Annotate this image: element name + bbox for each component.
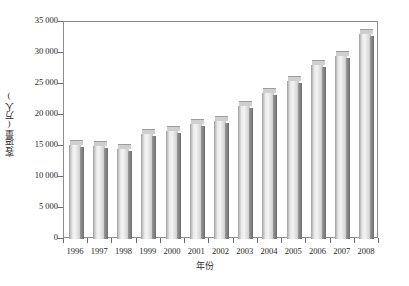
bar <box>69 141 84 239</box>
x-axis-tick-label: 2008 <box>354 246 378 256</box>
y-axis-tick-label: 30 000 <box>18 47 58 56</box>
bar-side-face <box>80 147 84 239</box>
y-axis-tick-mark <box>57 145 63 146</box>
bar-top-face <box>312 60 325 65</box>
bar <box>359 30 374 239</box>
bar-top-face <box>263 88 276 93</box>
x-axis-tick-mark <box>184 238 185 243</box>
x-axis-tick-mark <box>281 238 282 243</box>
bar-top-face <box>118 144 131 149</box>
bar <box>287 77 302 239</box>
bar <box>335 52 350 239</box>
bar-side-face <box>346 58 350 239</box>
bar-top-face <box>94 141 107 146</box>
bar-top-face <box>167 126 180 131</box>
x-axis-tick-label: 1996 <box>63 246 87 256</box>
x-axis-tick-mark <box>330 238 331 243</box>
y-axis-tick-mark <box>57 21 63 22</box>
bar <box>117 145 132 239</box>
bars-layer <box>64 22 379 239</box>
x-axis-tick-mark <box>136 238 137 243</box>
x-axis-tick-label: 2002 <box>208 246 232 256</box>
x-axis-tick-mark <box>233 238 234 243</box>
x-axis-tick-label: 2003 <box>233 246 257 256</box>
x-axis-title: 年份 <box>0 261 409 272</box>
y-axis-tick-label: 25 000 <box>18 78 58 87</box>
bar-side-face <box>201 126 205 239</box>
y-axis-tick-labels: 05 00010 00015 00020 00025 00030 00035 0… <box>18 0 58 286</box>
bar-top-face <box>288 76 301 81</box>
bar-side-face <box>273 95 277 239</box>
bar-top-face <box>142 129 155 134</box>
plot-area <box>63 21 378 238</box>
y-axis-tick-label: 35 000 <box>18 16 58 25</box>
bar-side-face <box>249 108 253 239</box>
bar <box>311 61 326 239</box>
bar-side-face <box>225 123 229 239</box>
x-axis-tick-label: 2006 <box>305 246 329 256</box>
bar-side-face <box>370 36 374 239</box>
bar <box>262 89 277 239</box>
y-axis-tick-mark <box>57 207 63 208</box>
x-axis-tick-label: 1999 <box>136 246 160 256</box>
bar-side-face <box>104 148 108 239</box>
x-axis-tick-label: 2004 <box>257 246 281 256</box>
x-axis-tick-label: 1998 <box>111 246 135 256</box>
x-axis-tick-mark <box>87 238 88 243</box>
bar-side-face <box>298 83 302 239</box>
y-axis-tick-label: 0 <box>18 233 58 242</box>
y-axis-tick-label: 20 000 <box>18 109 58 118</box>
x-axis-tick-mark <box>305 238 306 243</box>
x-axis-tick-label: 2000 <box>160 246 184 256</box>
y-axis-title: 客运量(万人) <box>4 92 18 157</box>
y-axis-tick-mark <box>57 114 63 115</box>
y-axis-tick-label: 15 000 <box>18 140 58 149</box>
bar-side-face <box>152 136 156 239</box>
bar <box>141 130 156 239</box>
bar <box>190 120 205 239</box>
x-axis-tick-label: 1997 <box>87 246 111 256</box>
x-axis-tick-mark <box>160 238 161 243</box>
bar <box>214 117 229 239</box>
x-axis-tick-label: 2001 <box>184 246 208 256</box>
bar <box>238 102 253 239</box>
bar-side-face <box>322 67 326 239</box>
bar <box>93 142 108 239</box>
bar-top-face <box>70 140 83 145</box>
x-axis-tick-mark <box>208 238 209 243</box>
y-axis-tick-mark <box>57 52 63 53</box>
x-axis-tick-label: 2005 <box>281 246 305 256</box>
x-axis-tick-mark <box>111 238 112 243</box>
y-axis-tick-label: 5 000 <box>18 202 58 211</box>
bar-side-face <box>177 133 181 240</box>
x-axis-tick-mark <box>354 238 355 243</box>
y-axis-tick-mark <box>57 83 63 84</box>
bar-chart: 客运量(万人) 05 00010 00015 00020 00025 00030… <box>0 0 409 286</box>
x-axis-tick-mark <box>257 238 258 243</box>
x-axis-tick-mark <box>63 238 64 243</box>
x-axis-tick-mark <box>378 238 379 243</box>
x-axis-tick-labels: 1996199719981999200020012002200320042005… <box>63 246 378 260</box>
bar <box>166 127 181 240</box>
bar-top-face <box>191 119 204 124</box>
bar-top-face <box>215 116 228 121</box>
y-axis-tick-mark <box>57 176 63 177</box>
bar-top-face <box>336 51 349 56</box>
bar-top-face <box>239 101 252 106</box>
y-axis-tick-label: 10 000 <box>18 171 58 180</box>
x-axis-tick-label: 2007 <box>330 246 354 256</box>
bar-top-face <box>360 29 373 34</box>
bar-side-face <box>128 151 132 239</box>
